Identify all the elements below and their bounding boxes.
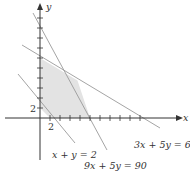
y-axis-arrow-icon [37,3,43,10]
label-3x-5y-60: 3x + 5y = 60 [134,139,190,150]
y-axis-label: y [45,1,52,12]
x-axis-arrow-icon [176,115,183,121]
feasible-region [40,58,90,118]
x-tick-label-2: 2 [48,121,54,132]
y-tick-label-2: 2 [30,103,36,114]
label-9x-5y-90: 9x + 5y = 90 [84,160,147,171]
feasible-region-diagram: y x 2 2 x + y = 2 9x + 5y = 90 3x + 5y =… [0,0,190,171]
x-axis-label: x [183,112,189,123]
label-x-plus-y-2: x + y = 2 [52,149,97,160]
